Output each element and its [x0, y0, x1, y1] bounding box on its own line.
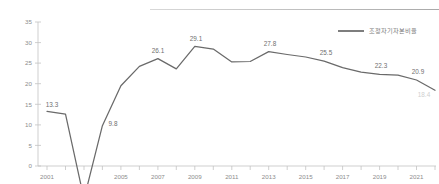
- y-tick-20: 20: [25, 80, 32, 87]
- y-tick-30: 30: [25, 39, 32, 46]
- data-label-2007: 26.1: [152, 47, 165, 54]
- y-tick-0: 0: [29, 162, 33, 169]
- chart-container: 0 5 10 15 20 25 30 35: [0, 0, 439, 184]
- x-tick-2015: 2015: [299, 173, 313, 180]
- data-label-2016: 25.5: [320, 49, 333, 56]
- data-label-2022: 18.4: [418, 91, 431, 98]
- y-tick-25: 25: [25, 59, 32, 66]
- x-tick-2009: 2009: [188, 173, 202, 180]
- x-tick-2011: 2011: [225, 173, 239, 180]
- y-tick-35: 35: [25, 18, 32, 25]
- x-axis-ticks: [47, 166, 435, 170]
- y-tick-5: 5: [29, 142, 33, 149]
- data-label-2004: 9.8: [109, 120, 118, 127]
- x-tick-2017: 2017: [336, 173, 350, 180]
- data-label-2021: 20.9: [412, 68, 425, 75]
- x-tick-2001: 2001: [40, 173, 54, 180]
- line-chart: 0 5 10 15 20 25 30 35: [0, 0, 439, 184]
- y-axis-tick-labels: 0 5 10 15 20 25 30 35: [25, 18, 32, 169]
- data-point-labels: 13.3 9.8 26.1 29.1 27.8 25.5 22.3 20.9 1…: [46, 35, 431, 127]
- data-label-2001: 13.3: [46, 101, 59, 108]
- y-tick-10: 10: [25, 121, 32, 128]
- x-tick-2013: 2013: [262, 173, 276, 180]
- x-tick-2005: 2005: [114, 173, 128, 180]
- y-tick-15: 15: [25, 101, 32, 108]
- x-tick-2019: 2019: [373, 173, 387, 180]
- legend-label-adjusted-equity-capital-ratio: 조정자기자본비율: [369, 27, 417, 35]
- data-label-2019: 22.3: [375, 62, 388, 69]
- x-tick-2007: 2007: [151, 173, 165, 180]
- data-label-2013: 27.8: [264, 40, 277, 47]
- x-axis-tick-labels: 2001 2005 2007 2009 2011 2013 2015 2017 …: [40, 173, 424, 180]
- data-label-2009: 29.1: [190, 35, 203, 42]
- chart-legend: 조정자기자본비율: [338, 27, 417, 35]
- x-tick-2021: 2021: [410, 173, 424, 180]
